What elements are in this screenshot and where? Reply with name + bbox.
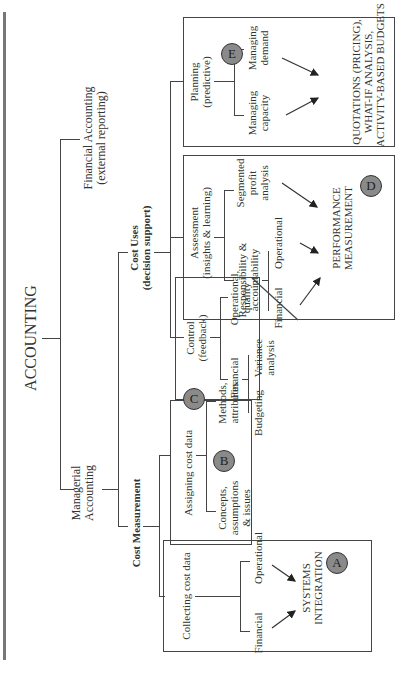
assessment-diagonal-edge xyxy=(252,278,298,320)
arrows-layer xyxy=(0,0,407,683)
arrow-operational-to-performance xyxy=(300,243,318,253)
arrow-capacity-to-quotations xyxy=(286,98,318,115)
arrow-financial-to-performance xyxy=(300,278,320,305)
arrow-financial-to-systems xyxy=(272,611,295,628)
arrow-segmented-to-performance xyxy=(282,183,317,207)
assessment-box-diagonal xyxy=(183,243,395,320)
arrow-operational-to-systems xyxy=(272,565,295,581)
accounting-diagram: ACCOUNTING Financial Accounting (externa… xyxy=(0,0,407,683)
arrow-demand-to-quotations xyxy=(282,58,318,75)
